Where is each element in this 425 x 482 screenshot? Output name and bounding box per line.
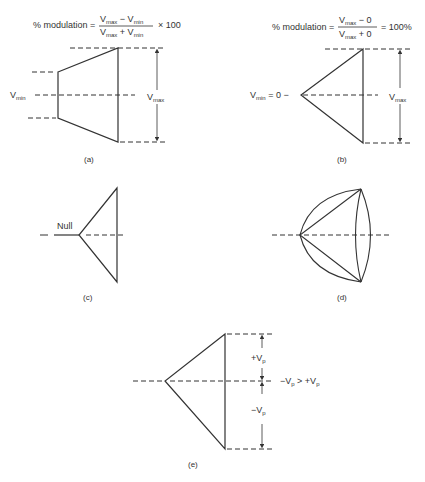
panel-e: +Vp −Vp −Vp > +Vp (e)	[133, 334, 320, 469]
vmax-label-b: Vmax	[389, 92, 406, 103]
vmin-label-b: Vmin = 0 −	[250, 90, 289, 101]
triangle-envelope-e	[165, 334, 225, 449]
vmin-label-a: Vmin	[10, 90, 26, 101]
triangle-envelope-b	[301, 49, 363, 143]
formula-b-suffix: = 100%	[381, 22, 412, 32]
caption-d: (d)	[337, 293, 347, 302]
caption-a: (a)	[84, 155, 94, 164]
formula-b-numerator: Vmax − 0	[339, 15, 372, 26]
panel-b: % modulation = Vmax − 0 Vmax + 0 = 100% …	[250, 15, 412, 164]
caption-b: (b)	[337, 155, 347, 164]
caption-c: (c)	[83, 293, 93, 302]
formula-a-prefix: % modulation =	[33, 20, 95, 30]
minus-vp-label: −Vp	[251, 405, 266, 416]
vmax-label-a: Vmax	[147, 92, 164, 103]
vp-relation-label: −Vp > +Vp	[280, 376, 320, 387]
caption-e: (e)	[188, 460, 198, 469]
panel-d: (d)	[272, 189, 390, 302]
modulation-diagram: % modulation = Vmax − Vmin Vmax + Vmin ×…	[0, 0, 425, 482]
formula-a-denominator: Vmax + Vmin	[100, 27, 143, 38]
formula-b-prefix: % modulation =	[272, 22, 334, 32]
formula-a-numerator: Vmax − Vmin	[100, 14, 143, 25]
null-label: Null	[57, 221, 73, 231]
panel-c: Null (c)	[40, 188, 126, 302]
plus-vp-label: +Vp	[251, 353, 266, 364]
formula-b-denominator: Vmax + 0	[339, 29, 372, 40]
formula-a-suffix: × 100	[158, 20, 181, 30]
panel-a: % modulation = Vmax − Vmin Vmax + Vmin ×…	[10, 14, 181, 164]
